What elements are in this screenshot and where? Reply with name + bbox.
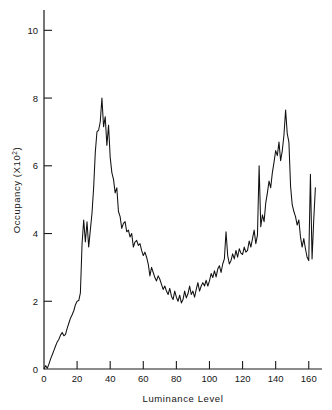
y-axis-title: Occupancy (X102)	[11, 147, 22, 234]
chart-canvas: 0246810 020406080100120140160 Luminance …	[0, 0, 332, 410]
x-tick-label-100: 100	[202, 373, 218, 384]
x-tick-label-0: 0	[41, 373, 46, 384]
y-axis-title-group: Occupancy (X102)	[11, 147, 22, 234]
y-tick-label-8: 8	[33, 93, 38, 104]
x-tick-label-160: 160	[301, 373, 317, 384]
x-tick-label-120: 120	[235, 373, 251, 384]
y-tick-label-4: 4	[33, 228, 38, 239]
y-tick-label-6: 6	[33, 160, 38, 171]
x-tick-label-40: 40	[105, 373, 116, 384]
y-axis-title-tail: )	[11, 147, 22, 151]
y-tick-label-10: 10	[27, 25, 38, 36]
x-tick-label-60: 60	[138, 373, 149, 384]
x-tick-label-80: 80	[171, 373, 182, 384]
y-tick-label-2: 2	[33, 296, 38, 307]
chart-figure: 0246810 020406080100120140160 Luminance …	[0, 0, 332, 410]
x-tick-label-140: 140	[268, 373, 284, 384]
y-axis-title-main: Occupancy (X10	[11, 155, 22, 234]
x-tick-label-20: 20	[72, 373, 83, 384]
y-tick-label-0: 0	[33, 364, 38, 375]
x-axis-title: Luminance Level	[143, 393, 224, 404]
figure-background	[0, 0, 332, 410]
